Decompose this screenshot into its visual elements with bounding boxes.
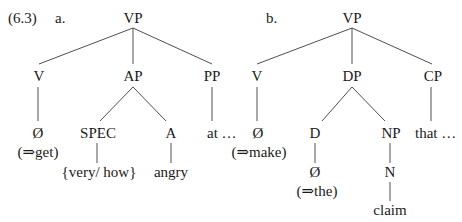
word-that: that … [415,125,456,141]
node-d: D [310,125,321,141]
tree-b: b. VP V DP CP Ø (⇒make) D NP Ø (⇒the) N … [231,10,456,218]
node-pp: PP [204,68,221,84]
example-number: (6.3) [8,10,37,27]
edge-dp-np [352,87,385,121]
node-v: V [252,68,263,84]
edge-vp-v [257,28,352,64]
node-dp: DP [342,68,361,84]
gloss-the: (⇒the) [297,183,338,200]
edge-ap-spec [100,87,133,121]
tree-b-root-vp: VP [342,10,361,26]
node-null-v: Ø [33,125,44,141]
node-a: A [166,125,177,141]
edge-vp-v [39,28,133,64]
gloss-get: (⇒get) [18,144,59,161]
node-null-v: Ø [253,125,264,141]
gloss-make: (⇒make) [231,144,286,161]
syntax-tree-figure: (6.3) a. VP V AP PP Ø (⇒get) SPEC A {ver… [0,0,462,222]
word-at: at … [207,125,237,141]
edge-vp-cp [352,28,432,64]
edge-vp-pp [133,28,212,64]
node-null-d: Ø [310,164,321,180]
tree-b-label: b. [266,10,277,26]
node-n: N [385,164,396,180]
edge-ap-a [133,87,166,121]
node-ap: AP [123,68,142,84]
node-np: NP [381,125,400,141]
spec-words: {very/ how} [62,164,137,180]
word-claim: claim [373,202,407,218]
node-spec: SPEC [80,125,116,141]
tree-a-label: a. [55,10,65,26]
node-cp: CP [424,68,442,84]
node-v: V [34,68,45,84]
word-angry: angry [154,164,189,180]
tree-a: a. VP V AP PP Ø (⇒get) SPEC A {very/ how… [18,10,237,180]
tree-a-root-vp: VP [123,10,142,26]
edge-dp-d [322,87,352,121]
